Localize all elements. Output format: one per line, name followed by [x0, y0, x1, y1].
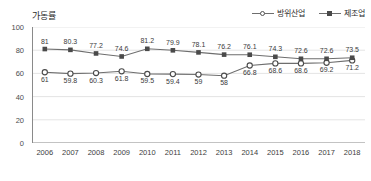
data-point	[145, 47, 150, 52]
legend-item-manufacturing[interactable]: 제조업	[319, 9, 365, 18]
data-label: 59.8	[64, 77, 78, 84]
data-label: 81.2	[140, 37, 154, 44]
x-axis-tick-label: 2012	[190, 148, 207, 157]
plot-area: 6159.860.361.859.559.4595866.868.668.669…	[32, 27, 365, 143]
open-circle-marker-icon	[252, 9, 274, 18]
x-axis-tick-label: 2006	[36, 148, 53, 157]
data-point	[196, 50, 201, 55]
data-point	[119, 54, 124, 59]
data-point	[273, 61, 278, 66]
data-point	[324, 56, 329, 61]
data-point	[171, 48, 176, 53]
data-label: 59	[195, 78, 203, 85]
data-label: 68.6	[269, 67, 283, 74]
y-axis-tick-label: 100	[11, 23, 24, 32]
data-point	[273, 55, 278, 60]
data-point	[68, 48, 73, 53]
y-axis-tick-labels: 100806040200	[0, 27, 28, 143]
legend-item-defense-industry[interactable]: 방위산업	[252, 9, 305, 18]
data-label: 68.6	[294, 67, 308, 74]
data-point	[247, 52, 252, 57]
data-label: 73.5	[345, 46, 359, 53]
y-axis-tick-label: 80	[16, 46, 24, 55]
x-axis-tick-label: 2013	[216, 148, 233, 157]
data-point	[43, 47, 48, 52]
data-point	[196, 72, 201, 77]
data-label: 78.1	[192, 41, 206, 48]
x-axis-tick-label: 2009	[113, 148, 130, 157]
data-label: 76.2	[217, 43, 231, 50]
data-label: 58	[220, 79, 228, 86]
chart-legend: 방위산업 제조업	[252, 9, 365, 18]
data-label: 71.2	[345, 64, 359, 71]
data-point	[170, 71, 175, 76]
data-point	[94, 51, 99, 56]
data-label: 72.6	[294, 47, 308, 54]
data-point	[68, 71, 73, 76]
data-label: 59.5	[140, 77, 154, 84]
y-axis-tick-label: 40	[16, 92, 24, 101]
legend-label-manufacturing: 제조업	[344, 9, 365, 18]
x-axis-tick-label: 2011	[165, 148, 181, 157]
x-axis-tick-label: 2008	[88, 148, 105, 157]
data-point	[119, 69, 124, 74]
data-label: 59.4	[166, 78, 180, 85]
data-point	[145, 71, 150, 76]
plot-svg: 6159.860.361.859.559.4595866.868.668.669…	[32, 27, 365, 143]
x-axis-tick-label: 2018	[344, 148, 361, 157]
data-label: 74.3	[269, 45, 283, 52]
data-point	[93, 70, 98, 75]
data-label: 72.6	[320, 47, 334, 54]
legend-label-defense-industry: 방위산업	[277, 9, 305, 18]
x-axis-tick-label: 2010	[139, 148, 156, 157]
x-axis-tick-label: 2017	[318, 148, 335, 157]
y-axis-tick-label: 60	[16, 69, 24, 78]
operating-rate-chart: 가동률 방위산업 제조업 100806040200 6159.860.361.8…	[0, 0, 371, 181]
data-point	[298, 61, 303, 66]
y-axis-tick-label: 0	[20, 139, 24, 148]
data-label: 69.2	[320, 66, 334, 73]
y-axis-tick-label: 20	[16, 115, 24, 124]
data-label: 81	[41, 38, 49, 45]
x-axis-tick-label: 2014	[241, 148, 258, 157]
x-axis-tick-label: 2007	[62, 148, 79, 157]
x-axis-tick-label: 2015	[267, 148, 284, 157]
data-label: 74.6	[115, 45, 129, 52]
chart-title: 가동률	[32, 9, 57, 22]
data-point	[222, 52, 227, 57]
data-label: 60.3	[89, 77, 103, 84]
x-axis-tick-label: 2016	[293, 148, 310, 157]
data-point	[350, 55, 355, 60]
data-label: 76.1	[243, 43, 257, 50]
filled-square-marker-icon	[319, 9, 341, 18]
data-label: 66.8	[243, 69, 257, 76]
data-label: 80.3	[64, 38, 78, 45]
data-point	[299, 56, 304, 61]
data-point	[42, 70, 47, 75]
data-point	[247, 63, 252, 68]
data-label: 61.8	[115, 75, 129, 82]
data-label: 61	[41, 76, 49, 83]
data-label: 77.2	[89, 42, 103, 49]
x-axis-tick-labels: 2006200720082009201020112012201320142015…	[32, 148, 365, 162]
data-point	[222, 73, 227, 78]
data-label: 79.9	[166, 39, 180, 46]
